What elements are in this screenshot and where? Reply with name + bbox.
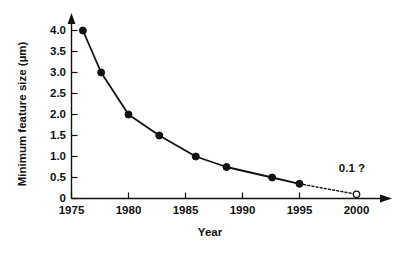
y-tick-label: 1.5 [50, 129, 67, 141]
y-tick-label: 2.5 [50, 87, 67, 99]
y-tick-label: 3.5 [50, 45, 67, 57]
y-tick-label: 0.5 [50, 171, 67, 183]
x-tick-label: 1985 [173, 204, 199, 216]
x-tick-label: 2000 [344, 204, 370, 216]
data-point [125, 111, 132, 118]
x-tick-label: 1975 [59, 204, 85, 216]
y-tick-label: 4.0 [50, 24, 66, 36]
projection-annotation-label: 0.1 ? [339, 162, 365, 174]
y-tick-label: 2.0 [50, 108, 66, 120]
data-point [296, 180, 303, 187]
data-point [192, 153, 199, 160]
chart-page: 0 0.5 1.0 1.5 2.0 2.5 3.0 3.5 4.0 1975 1… [0, 0, 409, 255]
minimum-feature-size-line-chart: 0 0.5 1.0 1.5 2.0 2.5 3.0 3.5 4.0 1975 1… [0, 0, 409, 255]
x-axis-title: Year [198, 226, 223, 238]
data-point [269, 174, 276, 181]
projection-point-marker [353, 191, 359, 197]
x-tick-label: 1980 [116, 204, 142, 216]
x-tick-label: 1990 [230, 204, 256, 216]
y-tick-label: 0 [60, 192, 66, 204]
projection-data-point [353, 191, 359, 197]
x-tick-label: 1995 [287, 204, 313, 216]
y-tick-labels: 0 0.5 1.0 1.5 2.0 2.5 3.0 3.5 4.0 [50, 24, 67, 204]
y-axis-title: Minimum feature size (µm) [16, 42, 28, 187]
y-tick-label: 3.0 [50, 66, 66, 78]
y-tick-label: 1.0 [50, 150, 66, 162]
data-point [223, 164, 230, 171]
data-point [79, 27, 86, 34]
data-point [98, 69, 105, 76]
data-point [156, 132, 163, 139]
chart-background [0, 0, 409, 255]
